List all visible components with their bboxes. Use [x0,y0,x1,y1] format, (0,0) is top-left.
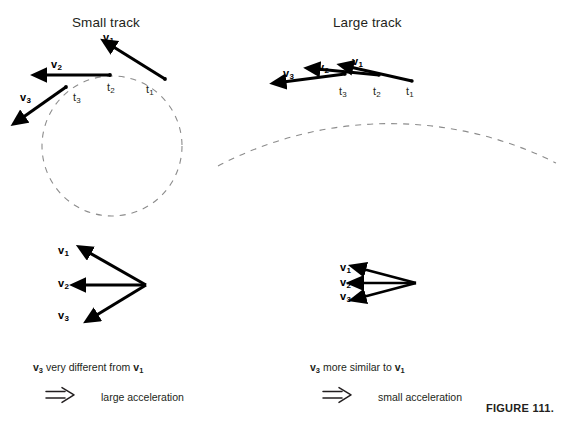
small-track-label-v1: v1 [103,32,114,45]
small-track-label-v2: v2 [51,59,62,72]
right-conclusion-statement: v3 more similar to v1 [310,362,405,375]
small-track-path [42,76,182,216]
small-track-label-t2: t2 [107,82,115,95]
large-track-label-v3: v3 [283,68,294,81]
large-track-label-t1: t1 [406,86,414,99]
right-fan-label-v2: v2 [340,277,351,290]
left-conclusion-result: large acceleration [101,391,184,403]
left-fan-label-v3: v3 [58,310,69,323]
figure-container: Small track Large track [0,0,564,428]
right-fan-vector-v1 [363,269,416,283]
left-fan-label-v2: v2 [58,278,69,291]
left-fan-label-v1: v1 [58,245,69,258]
small-track-label-v3: v3 [20,92,31,105]
small-track-label-t1: t1 [146,84,154,97]
large-track-label-v1: v1 [352,56,363,69]
large-track-label-t3: t3 [339,86,347,99]
double-right-arrow-icon [44,385,78,405]
right-conclusion-result: small acceleration [378,391,462,403]
large-track-path [218,124,556,166]
right-fan-vector-v3 [363,283,416,297]
small-track-vector-v1 [112,46,165,79]
small-track-label-t3: t3 [73,92,81,105]
left-conclusion-statement: v3 very different from v1 [33,362,143,375]
right-fan-label-v1: v1 [340,262,351,275]
right-fan-label-v3: v3 [340,291,351,304]
large-track-label-v2: v2 [318,62,329,75]
left-fan-vector-v1 [88,252,146,285]
large-track-label-t2: t2 [373,86,381,99]
double-right-arrow-icon [321,385,355,405]
figure-number-label: FIGURE 111. [486,402,554,414]
left-fan-vector-v3 [95,285,146,316]
